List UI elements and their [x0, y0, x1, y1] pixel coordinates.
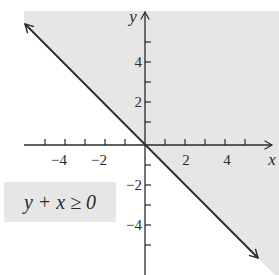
y-tick-label-neg2: −2: [126, 177, 142, 193]
x-tick-label-4: 4: [223, 152, 231, 168]
inequality-label-box: y + x ≥ 0: [4, 182, 116, 222]
y-tick-label-2: 2: [135, 94, 143, 110]
x-tick-label-neg2: −2: [91, 152, 107, 168]
shaded-solution-region: [24, 11, 279, 275]
inequality-graph: −4 −2 2 4 4 2 −2 −4 y x: [0, 0, 279, 275]
x-tick-label-2: 2: [182, 152, 190, 168]
y-axis-label: y: [127, 7, 137, 26]
y-tick-label-4: 4: [135, 54, 143, 70]
x-tick-label-neg4: −4: [51, 152, 67, 168]
x-axis-label: x: [267, 150, 276, 169]
y-tick-label-neg4: −4: [126, 217, 142, 233]
inequality-label: y + x ≥ 0: [24, 191, 96, 214]
